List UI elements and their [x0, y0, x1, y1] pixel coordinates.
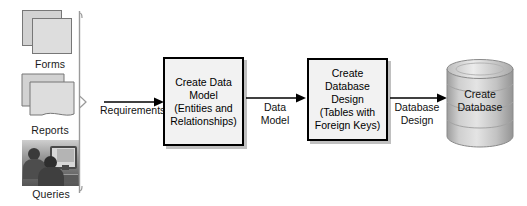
- report-page-front: [30, 82, 74, 115]
- process-2-line-1: Create: [315, 67, 380, 80]
- process-2-line-4: (Tables with: [315, 106, 380, 119]
- monitor-stand: [62, 165, 69, 170]
- process-1-line-2: Model: [170, 89, 237, 102]
- flow-label-data-model: Data Model: [246, 101, 304, 126]
- stacked-documents-icon: [22, 10, 78, 56]
- document-sheet-front: [32, 18, 72, 54]
- process-box-1-text: Create Data Model (Entities and Relation…: [167, 76, 240, 128]
- process-diagram: Forms Reports Queries R: [0, 0, 527, 206]
- source-label-queries: Queries: [20, 188, 82, 200]
- flow-label-database-design: Database Design: [386, 101, 448, 126]
- process-1-line-4: Relationships): [170, 115, 237, 128]
- process-2-line-5: Foreign Keys): [315, 119, 380, 132]
- process-2-line-2: Database: [315, 80, 380, 93]
- source-group-bracket: [78, 10, 90, 194]
- datastore-label-create-database: Create Database: [446, 88, 514, 114]
- flow-label-database-design-line-2: Design: [386, 114, 448, 127]
- users-at-computer-photo-icon: [22, 140, 80, 186]
- flow-label-data-model-line-2: Model: [246, 114, 304, 127]
- flow-label-database-design-line-1: Database: [386, 101, 448, 114]
- datastore-line-1: Create: [446, 88, 514, 101]
- source-label-reports: Reports: [18, 124, 82, 136]
- process-1-line-3: (Entities and: [170, 102, 237, 115]
- process-2-line-3: Design: [315, 93, 380, 106]
- monitor-screen: [57, 149, 74, 162]
- process-box-2-text: Create Database Design (Tables with Fore…: [312, 67, 383, 132]
- flow-label-data-model-line-1: Data: [246, 101, 304, 114]
- source-label-forms: Forms: [20, 58, 80, 70]
- cylinder-top: [447, 60, 513, 79]
- process-box-create-data-model[interactable]: Create Data Model (Entities and Relation…: [163, 57, 244, 146]
- datastore-line-2: Database: [446, 101, 514, 114]
- stacked-reports-icon: [20, 72, 80, 122]
- person-b-body: [38, 167, 64, 186]
- process-1-line-1: Create Data: [170, 76, 237, 89]
- process-box-create-database-design[interactable]: Create Database Design (Tables with Fore…: [307, 58, 388, 141]
- flow-label-requirements: Requirements: [100, 104, 164, 117]
